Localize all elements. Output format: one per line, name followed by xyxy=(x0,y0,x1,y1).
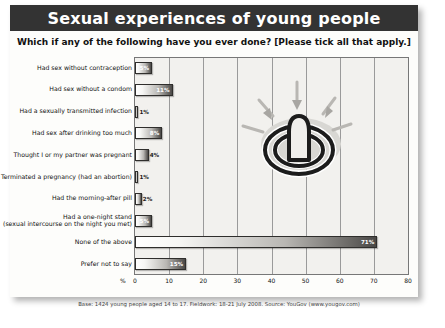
category-label: Had sex without a condom xyxy=(0,86,132,93)
category-label: Terminated a pregnancy (had an abortion) xyxy=(0,174,132,181)
chart-row: Thought I or my partner was pregnant4% xyxy=(17,148,411,162)
bar-wrapper: 11% xyxy=(135,84,173,96)
chart-row: Had a sexually transmitted infection1% xyxy=(17,105,411,119)
poster-card: Sexual experiences of young people Which… xyxy=(10,5,418,297)
bar-rows: Had sex without contraception5%Had sex w… xyxy=(17,57,411,275)
bar: 1% xyxy=(135,171,138,183)
bar-wrapper: 1% xyxy=(135,106,138,118)
category-label: Had sex without contraception xyxy=(0,65,132,72)
category-label: Thought I or my partner was pregnant xyxy=(0,152,132,159)
bar-wrapper: 8% xyxy=(135,127,162,139)
bar: 4% xyxy=(135,149,149,161)
bar-wrapper: 5% xyxy=(135,215,152,227)
axis-tick-label: 0 xyxy=(133,277,137,284)
source-note: Base: 1424 young people aged 14 to 17. F… xyxy=(10,301,428,307)
bar: 5% xyxy=(135,62,152,74)
bar: 15% xyxy=(135,258,186,270)
bar-wrapper: 2% xyxy=(135,193,142,205)
chart-row: Prefer not to say15% xyxy=(17,257,411,271)
chart-area: Had sex without contraception5%Had sex w… xyxy=(17,55,411,289)
category-label: Had a sexually transmitted infection xyxy=(0,108,132,115)
bar-value-label: 11% xyxy=(156,87,169,93)
chart-row: Had sex after drinking too much8% xyxy=(17,126,411,140)
bar-wrapper: 71% xyxy=(135,236,377,248)
title-bar: Sexual experiences of young people xyxy=(10,5,418,31)
bar: 2% xyxy=(135,193,142,205)
category-label: None of the above xyxy=(0,239,132,246)
bar-value-label: 1% xyxy=(139,174,149,180)
bar-value-label: 71% xyxy=(361,239,374,245)
bar-wrapper: 1% xyxy=(135,171,138,183)
bar-value-label: 5% xyxy=(140,65,150,71)
bar: 8% xyxy=(135,127,162,139)
axis-tick-label: 30 xyxy=(234,277,242,284)
axis-tick-label: 70 xyxy=(370,277,378,284)
chart-row: None of the above71% xyxy=(17,235,411,249)
bar: 71% xyxy=(135,236,377,248)
chart-row: Had sex without a condom11% xyxy=(17,83,411,97)
axis-tick-label: 50 xyxy=(302,277,310,284)
bar: 1% xyxy=(135,106,138,118)
axis-tick-label: 20 xyxy=(199,277,207,284)
chart-row: Had sex without contraception5% xyxy=(17,61,411,75)
bar-value-label: 2% xyxy=(143,196,153,202)
bar-wrapper: 15% xyxy=(135,258,186,270)
bar-value-label: 4% xyxy=(150,152,160,158)
bar-wrapper: 4% xyxy=(135,149,149,161)
axis-tick-label: 10 xyxy=(165,277,173,284)
category-label: Prefer not to say xyxy=(0,261,132,268)
bar-value-label: 8% xyxy=(150,130,160,136)
category-label: Had sex after drinking too much xyxy=(0,130,132,137)
page-title: Sexual experiences of young people xyxy=(47,9,380,28)
category-label: Had a one-night stand (sexual intercours… xyxy=(0,214,132,227)
axis-tick-label: 80 xyxy=(404,277,412,284)
question-text: Which if any of the following have you e… xyxy=(17,37,411,47)
axis-tick-label: 40 xyxy=(268,277,276,284)
bar-value-label: 1% xyxy=(139,109,149,115)
chart-row: Terminated a pregnancy (had an abortion)… xyxy=(17,170,411,184)
axis-tick-label: 60 xyxy=(336,277,344,284)
chart-row: Had the morning-after pill2% xyxy=(17,192,411,206)
bar-value-label: 15% xyxy=(170,261,183,267)
bar: 11% xyxy=(135,84,173,96)
chart-row: Had a one-night stand (sexual intercours… xyxy=(17,214,411,228)
category-label: Had the morning-after pill xyxy=(0,195,132,202)
bar: 5% xyxy=(135,215,152,227)
axis-unit-label: % xyxy=(120,277,126,284)
x-axis: % 01020304050607080 xyxy=(17,277,411,289)
bar-wrapper: 5% xyxy=(135,62,152,74)
bar-value-label: 5% xyxy=(140,218,150,224)
